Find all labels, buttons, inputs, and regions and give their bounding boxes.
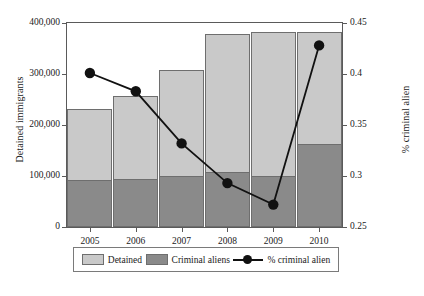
y-right-tickmark-1 (343, 176, 347, 177)
y-right-tickmark-0 (343, 227, 347, 228)
y-right-tick-label-2: 0.35 (350, 119, 406, 129)
x-tickmark-2009 (273, 228, 274, 232)
legend-label-detained: Detained (108, 255, 142, 265)
x-tickmark-2005 (90, 228, 91, 232)
x-tickmark-2006 (136, 228, 137, 232)
chart-figure: Detained immigrants % criminal alien Det… (0, 0, 424, 296)
y-right-tickmark-2 (343, 125, 347, 126)
percent-criminal-alien-line (90, 45, 319, 204)
criminal-aliens-swatch-icon (146, 254, 168, 265)
y-right-tickmark-3 (343, 74, 347, 75)
chart-legend: Detained Criminal aliens % criminal alie… (73, 247, 339, 272)
y-left-tickmark-0 (62, 227, 66, 228)
marker-percent-2006 (131, 86, 141, 96)
y-left-tickmark-4 (62, 23, 66, 24)
y-left-tick-label-0: 0 (4, 221, 60, 231)
x-tick-label-2010: 2010 (289, 236, 349, 246)
plot-area (66, 22, 343, 228)
y-right-tick-label-1: 0.3 (350, 170, 406, 180)
x-tickmark-2010 (319, 228, 320, 232)
y-left-tick-label-2: 200,000 (4, 119, 60, 129)
x-tickmark-2008 (227, 228, 228, 232)
y-right-tickmark-4 (343, 23, 347, 24)
y-right-tick-label-4: 0.45 (350, 17, 406, 27)
line-series-group (67, 23, 343, 228)
legend-label-percent-criminal-alien: % criminal alien (267, 255, 330, 265)
y-right-tick-label-0: 0.25 (350, 221, 406, 231)
marker-percent-2010 (314, 40, 324, 50)
marker-percent-2009 (268, 199, 278, 209)
detained-swatch-icon (82, 254, 104, 265)
y-left-tickmark-1 (62, 176, 66, 177)
percent-criminal-alien-markers (85, 40, 325, 210)
marker-percent-2005 (85, 68, 95, 78)
x-tickmark-2007 (182, 228, 183, 232)
y-left-tickmark-2 (62, 125, 66, 126)
marker-percent-2008 (222, 178, 232, 188)
legend-label-criminal-aliens: Criminal aliens (172, 255, 230, 265)
legend-item-percent-criminal-alien: % criminal alien (233, 254, 330, 265)
y-left-tickmark-3 (62, 74, 66, 75)
marker-percent-2007 (176, 138, 186, 148)
legend-item-criminal-aliens: Criminal aliens (146, 254, 230, 265)
y-right-tick-label-3: 0.4 (350, 68, 406, 78)
y-left-tick-label-4: 400,000 (4, 17, 60, 27)
y-left-tick-label-3: 300,000 (4, 68, 60, 78)
y-left-tick-label-1: 100,000 (4, 170, 60, 180)
legend-item-detained: Detained (82, 254, 142, 265)
line-marker-icon (233, 254, 263, 265)
